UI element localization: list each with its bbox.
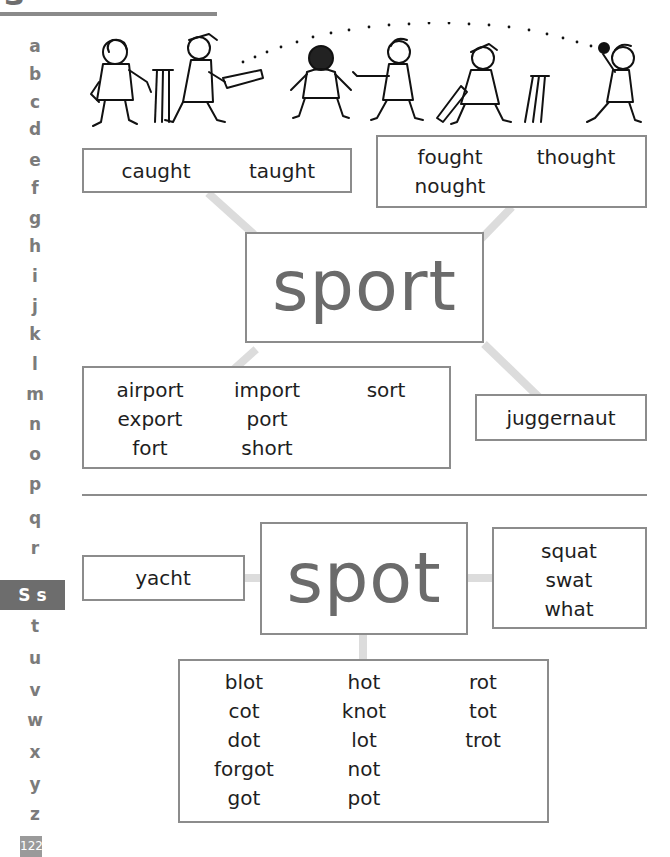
word-sort: sort (367, 378, 406, 402)
umpire-figure (91, 40, 151, 126)
alpha-letter-g[interactable]: g (0, 208, 70, 228)
word-fort: fort (132, 436, 167, 460)
connector-spot-ot (359, 634, 367, 660)
word-export: export (118, 407, 183, 431)
word-caught: caught (121, 159, 190, 183)
word-rot: rot (469, 670, 497, 694)
cricket-illustration (85, 22, 660, 132)
alpha-letter-y[interactable]: y (0, 774, 70, 794)
alpha-letter-k[interactable]: k (0, 324, 70, 344)
ot-words-box: blot cot dot forgot got hot knot lot not… (178, 659, 549, 823)
word-port: port (247, 407, 288, 431)
word-airport: airport (116, 378, 183, 402)
connector-sport-juggernaut (481, 341, 541, 400)
cricket-bat (223, 70, 263, 88)
alpha-letter-c[interactable]: c (0, 92, 70, 112)
word-taught: taught (249, 159, 315, 183)
fought-thought-box: fought thought nought (376, 135, 647, 208)
juggernaut-box: juggernaut (475, 394, 647, 441)
alpha-letter-b[interactable]: b (0, 64, 70, 84)
word-cot: cot (228, 699, 259, 723)
word-not: not (348, 757, 381, 781)
word-knot: knot (342, 699, 386, 723)
word-swat: swat (546, 568, 593, 592)
alpha-letter-a[interactable]: a (0, 36, 70, 56)
alpha-letter-n[interactable]: n (0, 414, 70, 434)
alpha-letter-t[interactable]: t (0, 616, 70, 636)
word-import: import (234, 378, 300, 402)
word-forgot: forgot (214, 757, 274, 781)
alpha-letter-w[interactable]: w (0, 710, 70, 730)
alpha-letter-i[interactable]: i (0, 266, 70, 286)
alpha-letter-x[interactable]: x (0, 742, 70, 762)
wicket-right (525, 76, 549, 122)
header-rule (0, 12, 217, 16)
headword-spot: spot (262, 538, 466, 618)
page-number: 122 (20, 836, 42, 857)
spot-headword-box: spot (260, 522, 468, 635)
alpha-letter-o[interactable]: o (0, 444, 70, 464)
word-trot: trot (465, 728, 501, 752)
alpha-letter-r[interactable]: r (0, 538, 70, 558)
connector-sport-caught (205, 190, 256, 237)
section-header-letter: s (4, 0, 30, 8)
alpha-letter-h[interactable]: h (0, 236, 70, 256)
headword-sport: sport (247, 246, 482, 326)
bowler-figure (587, 45, 641, 122)
alpha-letter-q[interactable]: q (0, 508, 70, 528)
alpha-letter-v[interactable]: v (0, 680, 70, 700)
caught-taught-box: caught taught (82, 148, 352, 193)
section-divider (82, 494, 647, 496)
alpha-letter-e[interactable]: e (0, 150, 70, 170)
squat-swat-what-box: squat swat what (492, 527, 647, 629)
word-short: short (241, 436, 292, 460)
word-pot: pot (348, 786, 381, 810)
word-fought: fought (417, 145, 482, 169)
word-hot: hot (348, 670, 381, 694)
yacht-box: yacht (82, 555, 245, 601)
alpha-letter-z[interactable]: z (0, 804, 70, 824)
cricket-ball (599, 43, 609, 53)
word-lot: lot (351, 728, 377, 752)
batsman-with-cap-figure (437, 44, 511, 124)
word-squat: squat (541, 539, 597, 563)
fielder-crouching-figure (291, 46, 351, 118)
ort-words-box: airport export fort import port short so… (82, 366, 451, 469)
word-what: what (544, 597, 593, 621)
connector-spot-squat (466, 574, 494, 582)
word-tot: tot (469, 699, 497, 723)
alpha-letter-j[interactable]: j (0, 296, 70, 316)
alpha-letter-d[interactable]: d (0, 119, 70, 139)
word-yacht: yacht (135, 566, 191, 590)
alpha-letter-u[interactable]: u (0, 648, 70, 668)
word-thought: thought (537, 145, 616, 169)
alpha-letter-p[interactable]: p (0, 474, 70, 494)
word-juggernaut: juggernaut (506, 406, 615, 430)
word-nought: nought (415, 174, 486, 198)
word-dot: dot (228, 728, 261, 752)
alpha-letter-f[interactable]: f (0, 178, 70, 198)
wicket-left (153, 70, 173, 122)
alpha-letter-m[interactable]: m (0, 384, 70, 404)
alpha-letter-s-active[interactable]: S s (0, 580, 65, 610)
fielder-reaching-figure (353, 39, 423, 120)
alpha-letter-l[interactable]: l (0, 354, 70, 374)
sport-headword-box: sport (245, 232, 484, 343)
ball-trajectory-dots (242, 22, 593, 63)
word-blot: blot (225, 670, 263, 694)
word-got: got (228, 786, 261, 810)
batsman-figure (165, 34, 263, 122)
